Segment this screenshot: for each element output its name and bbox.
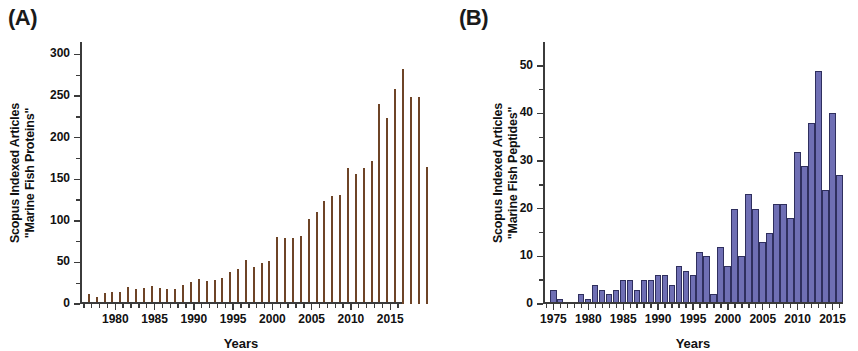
y-minor-tick-mark: [76, 75, 80, 76]
bar: [745, 194, 752, 304]
x-minor-tick-mark: [720, 304, 721, 308]
x-tick-mark: [311, 304, 312, 310]
x-minor-tick-mark: [240, 304, 241, 308]
x-minor-tick-mark: [162, 304, 163, 308]
bar: [801, 166, 808, 304]
x-minor-tick-mark: [616, 304, 617, 308]
x-tick-mark: [232, 304, 233, 310]
x-minor-tick-mark: [225, 304, 226, 308]
y-minor-tick-mark: [76, 158, 80, 159]
x-minor-tick-mark: [280, 304, 281, 308]
y-minor-tick-mark: [539, 137, 543, 138]
x-minor-tick-mark: [264, 304, 265, 308]
x-minor-tick-mark: [397, 304, 398, 308]
bar: [214, 280, 216, 304]
x-minor-tick-mark: [170, 304, 171, 308]
x-minor-tick-mark: [107, 304, 108, 308]
bar: [780, 204, 787, 304]
bar: [669, 285, 676, 304]
x-minor-tick-mark: [643, 304, 644, 308]
y-tick-label: 50: [495, 58, 533, 72]
bar: [683, 271, 690, 304]
bar: [237, 269, 239, 304]
x-minor-tick-mark: [366, 304, 367, 308]
bar: [766, 233, 773, 304]
x-minor-tick-mark: [146, 304, 147, 308]
x-tick-mark: [553, 304, 554, 310]
bar: [731, 209, 738, 304]
x-minor-tick-mark: [342, 304, 343, 308]
x-minor-tick-mark: [327, 304, 328, 308]
y-tick-label: 300: [32, 46, 70, 60]
x-minor-tick-mark: [567, 304, 568, 308]
x-minor-tick-mark: [678, 304, 679, 308]
bar: [794, 152, 801, 304]
x-minor-tick-mark: [650, 304, 651, 308]
bar: [822, 190, 829, 304]
bar: [323, 201, 325, 304]
bar: [641, 280, 648, 304]
y-minor-tick-mark: [76, 116, 80, 117]
x-minor-tick-mark: [209, 304, 210, 308]
panel-b-plot-area: [543, 42, 843, 304]
x-minor-tick-mark: [319, 304, 320, 308]
panel-a-y-axis-title-line1: Scopus Indexed Articles: [8, 42, 23, 304]
x-minor-tick-mark: [748, 304, 749, 308]
y-minor-tick-mark: [76, 241, 80, 242]
x-minor-tick-mark: [138, 304, 139, 308]
x-tick-mark: [692, 304, 693, 310]
x-minor-tick-mark: [630, 304, 631, 308]
x-minor-tick-mark: [609, 304, 610, 308]
panel-b-y-axis-line: [543, 42, 545, 304]
x-tick-mark: [350, 304, 351, 310]
x-minor-tick-mark: [699, 304, 700, 308]
bar: [655, 275, 662, 304]
x-tick-mark: [727, 304, 728, 310]
panel-a-plot-area: [80, 42, 402, 304]
bar: [253, 267, 255, 304]
x-minor-tick-mark: [358, 304, 359, 308]
x-tick-mark: [390, 304, 391, 310]
y-tick-label: 40: [495, 105, 533, 119]
y-tick-label: 30: [495, 153, 533, 167]
y-tick-label: 10: [495, 248, 533, 262]
y-minor-tick-mark: [539, 232, 543, 233]
bar: [724, 266, 731, 304]
y-tick-mark: [537, 113, 543, 114]
x-minor-tick-mark: [713, 304, 714, 308]
bar: [592, 285, 599, 304]
panel-b-y-axis-title: Scopus Indexed Articles "Marine Fish Pep…: [491, 42, 521, 304]
bar: [245, 260, 247, 304]
x-tick-mark: [588, 304, 589, 310]
bar: [808, 123, 815, 304]
bar: [363, 168, 365, 304]
x-minor-tick-mark: [825, 304, 826, 308]
panel-a-x-axis-title: Years: [80, 336, 402, 351]
y-tick-mark: [537, 208, 543, 209]
x-minor-tick-mark: [335, 304, 336, 308]
y-tick-label: 250: [32, 88, 70, 102]
bar: [815, 71, 822, 304]
y-minor-tick-mark: [539, 89, 543, 90]
y-minor-tick-mark: [76, 199, 80, 200]
x-minor-tick-mark: [574, 304, 575, 308]
y-tick-mark: [537, 65, 543, 66]
x-tick-mark: [193, 304, 194, 310]
panel-b-letter: (B): [459, 5, 488, 31]
x-minor-tick-mark: [581, 304, 582, 308]
bar: [378, 104, 380, 304]
bar: [331, 196, 333, 304]
x-minor-tick-mark: [636, 304, 637, 308]
bar: [717, 247, 724, 304]
x-minor-tick-mark: [382, 304, 383, 308]
x-minor-tick-mark: [595, 304, 596, 308]
x-minor-tick-mark: [248, 304, 249, 308]
bar: [261, 263, 263, 304]
y-minor-tick-mark: [539, 184, 543, 185]
y-tick-label: 150: [32, 171, 70, 185]
x-tick-mark: [272, 304, 273, 310]
panel-a-bars: [80, 42, 402, 304]
bar: [339, 195, 341, 304]
bar: [627, 280, 634, 304]
y-tick-label: 50: [32, 254, 70, 268]
